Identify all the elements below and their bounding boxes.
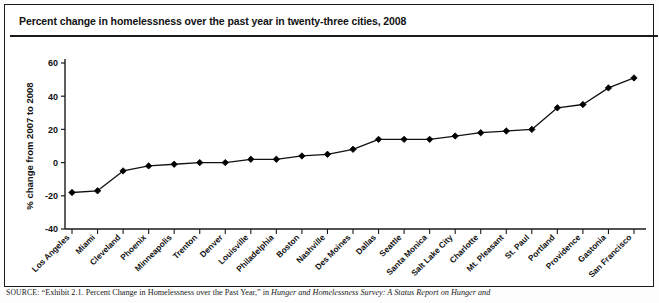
y-tick-label: -40 [45, 224, 58, 234]
source-note: SOURCE: “Exhibit 2.1. Percent Change in … [6, 288, 654, 297]
data-point-marker [197, 159, 203, 165]
data-point-marker [248, 156, 254, 162]
data-point-marker [299, 153, 305, 159]
data-point-marker [69, 189, 75, 195]
y-axis-title: % change from 2007 to 2008 [24, 82, 35, 209]
data-point-marker [580, 101, 586, 107]
x-tick-label: Los Angeles [30, 232, 72, 274]
data-point-marker [145, 163, 151, 169]
data-point-marker [350, 146, 356, 152]
y-tick-label: 40 [48, 92, 58, 102]
line-chart-svg: -40-200204060% change from 2007 to 2008L… [5, 5, 655, 286]
source-label: SOURCE: [6, 288, 39, 297]
plot-area: -40-200204060% change from 2007 to 2008L… [5, 5, 655, 286]
data-point-marker [605, 85, 611, 91]
source-text: “Exhibit 2.1. Percent Change in Homeless… [42, 288, 272, 297]
data-point-marker [171, 161, 177, 167]
data-point-marker [478, 130, 484, 136]
x-tick-label: Miami [73, 232, 97, 256]
source-italic-title: Hunger and Homelessness Survey: A Status… [271, 288, 490, 297]
data-point-marker [375, 136, 381, 142]
screenshot-root: Percent change in homelessness over the … [0, 0, 659, 303]
y-tick-label: -20 [45, 191, 58, 201]
data-point-marker [452, 133, 458, 139]
data-point-marker [503, 128, 509, 134]
y-tick-label: 0 [53, 158, 58, 168]
x-tick-label: Dallas [354, 232, 379, 257]
y-tick-label: 20 [48, 125, 58, 135]
data-point-marker [324, 151, 330, 157]
data-point-marker [222, 159, 228, 165]
data-point-marker [426, 136, 432, 142]
data-point-marker [401, 136, 407, 142]
chart-panel: Percent change in homelessness over the … [4, 4, 654, 287]
x-tick-label: Trenton [171, 232, 200, 261]
data-point-marker [631, 75, 637, 81]
data-point-marker [273, 156, 279, 162]
data-line [72, 78, 634, 193]
y-tick-label: 60 [48, 58, 58, 68]
